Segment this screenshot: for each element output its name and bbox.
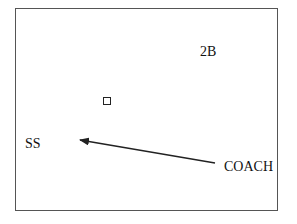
position-label-ss: SS xyxy=(25,137,41,151)
diagram-frame xyxy=(15,8,278,211)
position-label-coach: COACH xyxy=(224,160,273,174)
square-marker-icon xyxy=(103,97,111,105)
position-label-2b: 2B xyxy=(200,45,216,59)
